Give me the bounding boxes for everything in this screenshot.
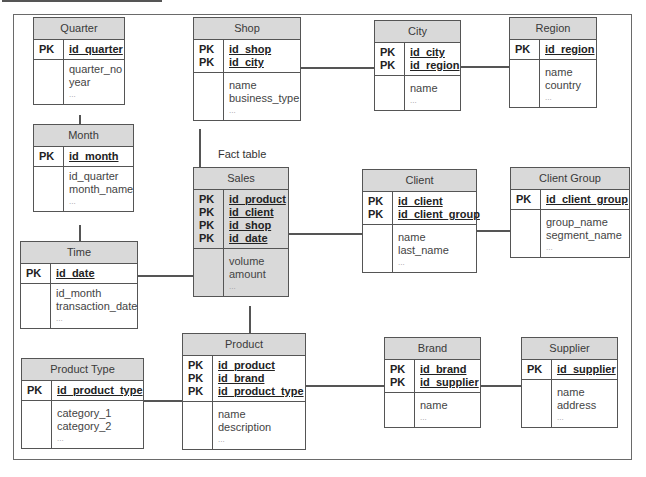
pk-field: id_product	[218, 359, 304, 372]
pk-field: id_brand	[218, 372, 304, 385]
connector-producttype-product	[143, 400, 182, 402]
attr-field: group_name	[546, 216, 622, 229]
pk-section: PK PK PK PK id_product id_client id_shop…	[194, 190, 288, 249]
table-client[interactable]: Client PK PK id_client id_client_group n…	[362, 169, 477, 273]
attr-section: name country ...	[510, 60, 596, 107]
more-fields: ...	[229, 105, 299, 117]
table-sales[interactable]: Sales PK PK PK PK id_product id_client i…	[193, 167, 289, 297]
pk-section: PK id_supplier	[522, 360, 617, 380]
table-city[interactable]: City PK PK id_city id_region name ...	[374, 20, 461, 111]
attr-section: name description ...	[183, 402, 305, 449]
attr-field: name	[398, 231, 449, 244]
attr-field: transaction_date	[56, 300, 137, 313]
pk-label: PK	[390, 363, 414, 376]
more-fields: ...	[420, 412, 448, 424]
pk-label: PK	[516, 193, 540, 206]
attr-field: last_name	[398, 244, 449, 257]
pk-section: PK id_date	[21, 264, 137, 284]
table-product[interactable]: Product PK PK PK id_product id_brand id_…	[182, 333, 306, 450]
pk-label: PK	[188, 385, 212, 398]
pk-field: id_product	[229, 193, 286, 206]
table-header: Shop	[194, 18, 300, 40]
pk-field: id_brand	[420, 363, 479, 376]
attr-section: name address ...	[522, 380, 617, 427]
pk-section: PK id_quarter	[34, 40, 124, 60]
pk-field: id_region	[545, 43, 595, 56]
attr-field: segment_name	[546, 229, 622, 242]
attr-section: name ...	[375, 76, 460, 110]
pk-section: PK PK id_shop id_city	[194, 40, 300, 73]
more-fields: ...	[69, 89, 122, 101]
attr-field: year	[69, 76, 122, 89]
pk-label: PK	[199, 43, 223, 56]
table-header: Quarter	[34, 18, 124, 40]
pk-field: id_shop	[229, 219, 286, 232]
table-header: Product Type	[22, 359, 143, 381]
attr-field: name	[229, 79, 299, 92]
connector-city-region	[460, 66, 510, 68]
clipped-title	[2, 0, 162, 2]
attr-field: id_quarter	[69, 170, 133, 183]
pk-label: PK	[199, 193, 223, 206]
attr-field: name	[218, 408, 271, 421]
table-header: Month	[34, 125, 133, 147]
pk-field: id_shop	[229, 43, 271, 56]
attr-field: country	[545, 79, 581, 92]
attr-field: category_1	[57, 407, 111, 420]
attr-field: category_2	[57, 420, 111, 433]
table-client-group[interactable]: Client Group PK id_client_group group_na…	[510, 167, 630, 258]
pk-field: id_supplier	[420, 376, 479, 389]
connector-shop-city	[301, 67, 374, 69]
table-header: City	[375, 21, 460, 43]
table-month[interactable]: Month PK id_month id_quarter month_name …	[33, 124, 134, 212]
table-header: Client Group	[511, 168, 629, 190]
pk-label: PK	[199, 206, 223, 219]
attr-section: name last_name ...	[363, 225, 476, 272]
pk-label: PK	[27, 384, 51, 397]
attr-field: address	[557, 399, 596, 412]
pk-section: PK id_month	[34, 147, 133, 167]
pk-field: id_product_type	[218, 385, 304, 398]
more-fields: ...	[410, 95, 438, 107]
pk-field: id_supplier	[557, 363, 616, 376]
table-header: Supplier	[522, 338, 617, 360]
connector-brand-supplier	[481, 385, 522, 387]
attr-section: name ...	[385, 393, 480, 427]
pk-label: PK	[527, 363, 551, 376]
more-fields: ...	[69, 196, 133, 208]
table-brand[interactable]: Brand PK PK id_brand id_supplier name ..…	[384, 337, 481, 428]
more-fields: ...	[56, 313, 137, 325]
connector-shop-sales	[199, 129, 201, 168]
attr-section: quarter_no year ...	[34, 60, 124, 104]
pk-section: PK PK id_city id_region	[375, 43, 460, 76]
pk-label: PK	[188, 372, 212, 385]
pk-label: PK	[39, 43, 63, 56]
attr-field: amount	[229, 268, 266, 281]
pk-label: PK	[515, 43, 539, 56]
attr-field: name	[545, 66, 581, 79]
pk-field: id_city	[229, 56, 271, 69]
attr-field: month_name	[69, 183, 133, 196]
attr-field: id_month	[56, 287, 137, 300]
pk-field: id_quarter	[69, 43, 123, 56]
more-fields: ...	[57, 433, 111, 445]
connector-quarter-month	[79, 115, 81, 124]
table-product-type[interactable]: Product Type PK id_product_type category…	[21, 358, 144, 449]
table-region[interactable]: Region PK id_region name country ...	[509, 17, 597, 108]
more-fields: ...	[557, 412, 596, 424]
attr-section: name business_type ...	[194, 73, 300, 120]
table-shop[interactable]: Shop PK PK id_shop id_city name business…	[193, 17, 301, 121]
connector-time-sales	[138, 275, 194, 277]
table-header: Brand	[385, 338, 480, 360]
table-time[interactable]: Time PK id_date id_month transaction_dat…	[20, 241, 138, 329]
attr-field: name	[410, 82, 438, 95]
table-supplier[interactable]: Supplier PK id_supplier name address ...	[521, 337, 618, 428]
more-fields: ...	[546, 242, 622, 254]
connector-client-clientgroup	[476, 230, 510, 232]
pk-section: PK PK id_client id_client_group	[363, 192, 476, 225]
table-quarter[interactable]: Quarter PK id_quarter quarter_no year ..…	[33, 17, 125, 105]
pk-field: id_client	[229, 206, 286, 219]
connector-product-brand	[306, 385, 384, 387]
attr-field: name	[420, 399, 448, 412]
pk-field: id_date	[229, 232, 286, 245]
